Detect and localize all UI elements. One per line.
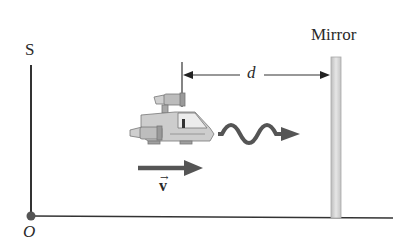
distance-label: d xyxy=(244,63,259,83)
origin-label: O xyxy=(23,222,35,242)
velocity-vector xyxy=(138,160,203,176)
mirror xyxy=(331,57,341,218)
mirror-label: Mirror xyxy=(311,25,356,45)
velocity-label: v xyxy=(159,177,167,195)
light-pulse xyxy=(218,125,300,143)
origin-point xyxy=(27,212,36,221)
spacecraft xyxy=(130,93,214,144)
vertical-axis-label: S xyxy=(25,40,34,60)
